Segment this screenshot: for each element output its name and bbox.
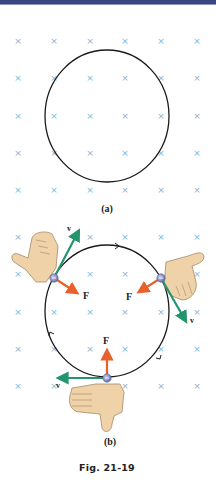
svg-text:×: × <box>86 344 94 354</box>
svg-text:×: × <box>193 307 201 317</box>
svg-text:×: × <box>14 269 22 279</box>
panel-b-label: (b) <box>104 436 116 447</box>
svg-text:×: × <box>86 232 94 242</box>
force-label-right: F <box>126 291 132 302</box>
svg-text:×: × <box>86 148 94 158</box>
figure-canvas: ×××××× ×××××× ×××××× ×××××× ×××××× ×××××… <box>0 0 216 482</box>
svg-text:×: × <box>86 307 94 317</box>
svg-text:×: × <box>86 269 94 279</box>
svg-text:×: × <box>121 344 129 354</box>
panel-a-label: (a) <box>101 203 113 214</box>
svg-text:×: × <box>50 36 58 46</box>
svg-text:×: × <box>121 73 129 83</box>
panel-a-orbit <box>45 50 169 182</box>
svg-text:×: × <box>14 232 22 242</box>
svg-text:×: × <box>121 111 129 121</box>
svg-text:×: × <box>121 232 129 242</box>
svg-text:×: × <box>86 36 94 46</box>
svg-text:×: × <box>14 185 22 195</box>
velocity-label-top-left: v <box>67 224 71 233</box>
force-label-bottom: F <box>103 335 109 346</box>
svg-text:×: × <box>121 36 129 46</box>
svg-text:×: × <box>157 111 165 121</box>
svg-text:×: × <box>157 36 165 46</box>
svg-text:×: × <box>193 232 201 242</box>
svg-text:×: × <box>121 307 129 317</box>
svg-text:×: × <box>50 307 58 317</box>
svg-text:×: × <box>14 307 22 317</box>
svg-text:×: × <box>193 73 201 83</box>
svg-text:×: × <box>157 185 165 195</box>
figure-caption: Fig. 21-19 <box>79 462 135 473</box>
svg-text:×: × <box>14 148 22 158</box>
svg-text:×: × <box>157 307 165 317</box>
svg-text:×: × <box>193 111 201 121</box>
svg-text:×: × <box>86 185 94 195</box>
svg-text:×: × <box>14 344 22 354</box>
svg-text:×: × <box>14 36 22 46</box>
svg-text:×: × <box>14 111 22 121</box>
hand-bottom-icon <box>69 384 124 431</box>
svg-text:×: × <box>14 381 22 391</box>
svg-text:×: × <box>50 185 58 195</box>
svg-text:×: × <box>193 148 201 158</box>
svg-text:×: × <box>121 269 129 279</box>
velocity-label-bottom: v <box>56 381 60 390</box>
svg-text:×: × <box>157 232 165 242</box>
velocity-label-right: v <box>190 316 194 325</box>
panel-a-field-marks: ×××××× ×××××× ×××××× ×××××× ×××××× <box>14 36 201 195</box>
svg-text:×: × <box>193 381 201 391</box>
svg-text:×: × <box>86 111 94 121</box>
svg-text:×: × <box>121 148 129 158</box>
force-label-top-left: F <box>83 290 89 301</box>
svg-text:×: × <box>121 185 129 195</box>
svg-text:×: × <box>193 344 201 354</box>
svg-text:×: × <box>157 381 165 391</box>
svg-text:×: × <box>50 111 58 121</box>
svg-text:×: × <box>14 73 22 83</box>
svg-text:×: × <box>193 185 201 195</box>
svg-text:×: × <box>193 36 201 46</box>
svg-text:×: × <box>86 73 94 83</box>
